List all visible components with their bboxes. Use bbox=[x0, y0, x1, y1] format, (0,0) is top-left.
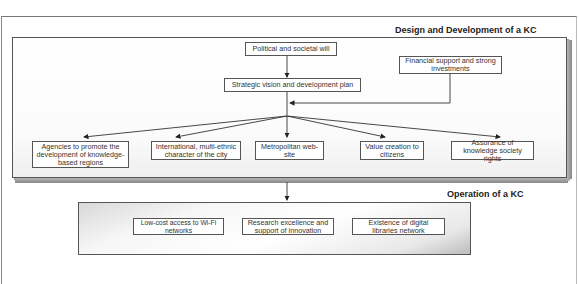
node-strategic-vision: Strategic vision and development plan bbox=[224, 78, 361, 92]
node-financial-support: Financial support and strong investments bbox=[399, 56, 502, 74]
node-research-excellence: Research excellence and support of innov… bbox=[242, 218, 334, 235]
node-digital-libraries: Existence of digital libraries network bbox=[352, 218, 445, 235]
node-agencies: Agencies to promote the development of k… bbox=[32, 141, 129, 168]
node-assurance: Assurance of knowledge society rights bbox=[451, 141, 534, 160]
operation-section-title: Operation of a KC bbox=[447, 189, 524, 199]
node-metropolitan: Metropolitan web-site bbox=[255, 141, 324, 160]
node-political-will: Political and societal will bbox=[245, 42, 337, 56]
node-wifi-access: Low-cost access to Wi-Fi networks bbox=[133, 218, 224, 235]
node-international: International, multi-ethnic character of… bbox=[151, 141, 241, 160]
node-value-creation: Value creation to citizens bbox=[360, 141, 424, 160]
